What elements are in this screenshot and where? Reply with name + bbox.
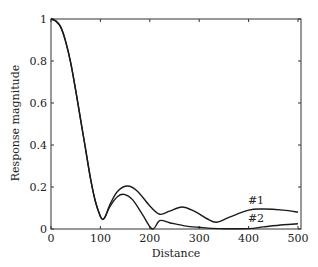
- y-tick-label: 0.8: [30, 55, 48, 68]
- y-tick-label: 0: [40, 223, 47, 236]
- y-tick-label: 1: [40, 13, 47, 26]
- x-tick-label: 200: [139, 232, 160, 245]
- series-line-1: [51, 19, 298, 222]
- y-tick-label: 0.6: [30, 97, 48, 110]
- axis-ticks: 010020030040050000.20.40.60.81: [30, 13, 309, 245]
- x-tick-label: 500: [288, 232, 309, 245]
- series-annotation-2: #2: [248, 212, 264, 225]
- x-tick-label: 400: [238, 232, 259, 245]
- y-tick-label: 0.2: [30, 181, 48, 194]
- response-chart: 010020030040050000.20.40.60.81 #1#2 Dist…: [0, 0, 318, 267]
- x-tick-label: 100: [90, 232, 111, 245]
- series-annotation-1: #1: [248, 194, 264, 207]
- x-axis-label: Distance: [152, 247, 201, 260]
- y-axis-label: Response magnitude: [9, 65, 22, 182]
- x-tick-label: 0: [48, 232, 55, 245]
- y-tick-label: 0.4: [30, 139, 48, 152]
- x-tick-label: 300: [189, 232, 210, 245]
